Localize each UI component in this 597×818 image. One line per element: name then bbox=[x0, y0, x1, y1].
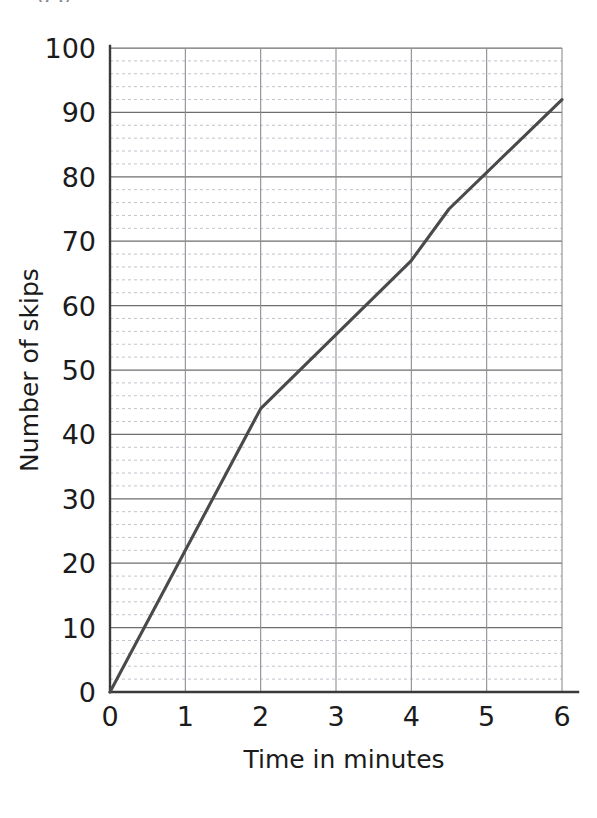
chart-page: g p 0102030405060708090100 0123456 Time … bbox=[0, 0, 597, 818]
x-tick-label-1: 1 bbox=[177, 701, 194, 732]
y-tick-label-70: 70 bbox=[62, 226, 96, 257]
y-tick-label-50: 50 bbox=[62, 355, 96, 386]
y-tick-label-40: 40 bbox=[62, 419, 96, 450]
x-axis-tick-labels: 0123456 bbox=[101, 701, 570, 732]
x-tick-label-3: 3 bbox=[327, 701, 344, 732]
x-tick-label-6: 6 bbox=[553, 701, 570, 732]
x-tick-label-2: 2 bbox=[252, 701, 269, 732]
x-tick-label-5: 5 bbox=[478, 701, 495, 732]
x-axis-title: Time in minutes bbox=[242, 745, 444, 774]
line-chart-figure: 0102030405060708090100 0123456 Time in m… bbox=[0, 0, 597, 818]
y-tick-label-10: 10 bbox=[62, 613, 96, 644]
y-tick-label-100: 100 bbox=[44, 33, 96, 64]
y-axis-title: Number of skips bbox=[15, 268, 44, 472]
y-tick-label-0: 0 bbox=[79, 677, 96, 708]
y-tick-label-20: 20 bbox=[62, 548, 96, 579]
y-tick-label-90: 90 bbox=[62, 97, 96, 128]
y-tick-label-80: 80 bbox=[62, 162, 96, 193]
y-tick-label-30: 30 bbox=[62, 484, 96, 515]
x-tick-label-4: 4 bbox=[403, 701, 420, 732]
x-tick-label-0: 0 bbox=[101, 701, 118, 732]
chart-svg: 0102030405060708090100 0123456 Time in m… bbox=[0, 0, 597, 818]
y-tick-label-60: 60 bbox=[62, 291, 96, 322]
y-axis-tick-labels: 0102030405060708090100 bbox=[44, 33, 96, 708]
